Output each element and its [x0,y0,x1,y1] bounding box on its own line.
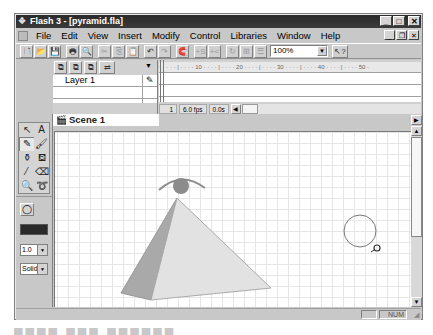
status-bar: NUM ◢ [16,308,421,320]
snap-icon[interactable]: 🧲 [176,45,189,58]
pencil-cursor-icon [371,245,380,252]
layer-name: Layer 1 [65,75,95,86]
chevron-down-icon[interactable]: ▼ [37,245,47,255]
window-title: Flash 3 - [pyramid.fla] [30,16,123,27]
lasso-tool-icon[interactable]: ➰ [34,179,49,193]
cut-icon[interactable]: ✂ [98,45,111,58]
pencil-icon: ✎ [146,75,154,86]
scene-clapper-icon: 🎬 [56,115,67,125]
straighten-icon[interactable]: +< [208,45,221,58]
empty-layer-row [53,87,157,99]
scroll-right-icon[interactable]: ▶ [411,115,422,125]
menu-help[interactable]: Help [316,30,346,42]
menu-file[interactable]: File [31,30,56,42]
frame-ruler[interactable]: ᐧ · · · · | · · · · 10 · · · · | · · · ·… [159,62,421,73]
zoom-value: 100% [273,46,293,55]
frame-rate: 6.0 fps [179,104,207,114]
resize-grip-icon[interactable]: ◢ [414,311,419,319]
pencil-tool-icon[interactable]: ✎ [19,137,34,151]
stage-vscroll[interactable]: ▲ ▼ [411,126,422,307]
align-icon[interactable]: ☰ [254,45,267,58]
menu-bar: File Edit View Insert Modify Control Lib… [16,29,421,42]
chevron-down-icon[interactable]: ▼ [317,46,327,56]
new-icon[interactable]: 🗋 [20,45,33,58]
shape-recognition-icon[interactable]: ◯ [20,203,34,216]
doc-restore-button[interactable]: ❐ [396,30,407,40]
arrow-tool-icon[interactable]: ↖ [19,123,34,137]
playhead[interactable] [160,60,164,102]
context-help-icon[interactable]: ↖? [332,45,348,58]
stage-drawing [55,132,411,307]
elapsed-time: 0.0s [209,104,229,114]
scroll-thumb[interactable] [411,137,422,237]
menu-window[interactable]: Window [272,30,316,42]
document-icon[interactable] [18,31,28,41]
magnifier-tool-icon[interactable]: 🔍 [19,179,34,193]
scroll-up-icon[interactable]: ▲ [411,126,422,136]
layer-row[interactable]: Layer 1 ✎ [53,75,157,87]
doc-minimize-button[interactable]: _ [384,30,395,40]
drawn-circle [344,215,376,247]
minimize-button[interactable]: _ [380,16,392,26]
menu-edit[interactable]: Edit [56,30,82,42]
zoom-select[interactable]: 100% ▼ [270,45,328,57]
scroll-left-icon[interactable]: ◀ [231,104,241,114]
open-icon[interactable]: 📂 [34,45,47,58]
status-panel [361,310,377,319]
text-tool-icon[interactable]: A [34,123,49,137]
menu-libraries[interactable]: Libraries [225,30,271,42]
menu-insert[interactable]: Insert [113,30,147,42]
menu-control[interactable]: Control [185,30,226,42]
flash-window: ❖ Flash 3 - [pyramid.fla] _ □ ✕ File Edi… [14,13,423,320]
line-style-select[interactable]: Solid ▼ [20,263,48,275]
title-bar[interactable]: ❖ Flash 3 - [pyramid.fla] _ □ ✕ [16,15,421,28]
add-layer-icon[interactable]: ⧉ [54,61,67,74]
stage-canvas[interactable] [54,131,411,307]
stroke-color-swatch[interactable] [20,224,48,235]
scene-name[interactable]: Scene 1 [69,114,105,126]
line-width-value: 1.0 [22,246,32,253]
print-preview-icon[interactable]: 🔍 [80,45,93,58]
smooth-icon[interactable]: +S [194,45,207,58]
layer-properties-icon[interactable]: ⧉ [84,61,97,74]
current-frame: 1 [159,104,177,114]
toolbox: ↖ A ✎ 🖌 ⚱ ⛾ ⁄ ⌫ 🔍 ➰ ◯ 1.0 ▼ Solid ▼ [16,114,53,307]
chevron-down-icon[interactable]: ▼ [37,264,47,274]
brush-tool-icon[interactable]: 🖌 [34,137,49,151]
menu-modify[interactable]: Modify [147,30,185,42]
eye-pupil [173,178,189,194]
undo-icon[interactable]: ↶ [144,45,157,58]
frame-grid[interactable] [159,73,421,102]
copy-icon[interactable]: ⎘ [112,45,125,58]
dropper-tool-icon[interactable]: ⁄ [19,165,34,179]
ink-bottle-tool-icon[interactable]: ⚱ [19,151,34,165]
flash-app-icon: ❖ [18,16,28,26]
clipped-caption: ▀▀▀▀ ▀▀▀ ▀▀▀▀▀▀ ▀▀▀▀▀ [14,327,194,335]
line-style-value: Solid [22,265,38,272]
timeline-hscroll[interactable]: ◀ [231,104,421,114]
rotate-icon[interactable]: ↻ [226,45,239,58]
scene-bar: 🎬 Scene 1 [53,114,159,126]
scroll-thumb[interactable] [242,104,258,114]
scale-icon[interactable]: ⊞ [240,45,253,58]
layer-panel: ⧉ ⧉ ⧉ ⇄ ▼ Layer 1 ✎ [53,60,158,114]
line-width-select[interactable]: 1.0 ▼ [20,244,48,256]
redo-icon[interactable]: ↷ [158,45,171,58]
menu-view[interactable]: View [83,30,113,42]
onion-skin-icon[interactable]: ⇄ [99,61,115,74]
save-icon[interactable]: 💾 [48,45,61,58]
paint-bucket-tool-icon[interactable]: ⛾ [34,151,49,165]
layer-menu-chevron-icon[interactable]: ▼ [145,62,152,69]
paste-icon[interactable]: 📋 [126,45,139,58]
close-button[interactable]: ✕ [408,16,420,26]
timeline-panel: ⧉ ⧉ ⧉ ⇄ ▼ Layer 1 ✎ ᐧ · · · · | · · · · … [53,60,421,114]
doc-close-button[interactable]: ✕ [408,30,419,40]
num-lock-indicator: NUM [379,310,407,319]
main-toolbar: 🗋 📂 💾 🖶 🔍 ✂ ⎘ 📋 ↶ ↷ 🧲 +S +< ↻ ⊞ ☰ 100% ▼… [16,43,421,59]
scroll-down-icon[interactable]: ▼ [411,297,422,307]
empty-layer-row [53,99,157,103]
print-icon[interactable]: 🖶 [66,45,79,58]
eraser-tool-icon[interactable]: ⌫ [34,165,49,179]
remove-layer-icon[interactable]: ⧉ [69,61,82,74]
maximize-button[interactable]: □ [393,16,405,26]
